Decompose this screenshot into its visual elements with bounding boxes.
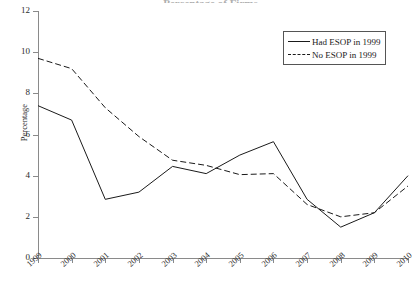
legend-item-no-esop: No ESOP in 1999 <box>288 48 380 61</box>
legend-label-had-esop: Had ESOP in 1999 <box>312 37 380 47</box>
line-chart: Percentage of Firms Percentage 024681012… <box>0 0 416 283</box>
series-line-had-esop-in-1999 <box>38 106 408 227</box>
legend-key-dashed-line <box>288 50 310 59</box>
legend-label-no-esop: No ESOP in 1999 <box>312 50 376 60</box>
legend-key-solid-line <box>288 37 310 46</box>
legend-item-had-esop: Had ESOP in 1999 <box>288 35 380 48</box>
chart-legend: Had ESOP in 1999 No ESOP in 1999 <box>283 31 386 65</box>
series-line-no-esop-in-1999 <box>38 58 408 216</box>
